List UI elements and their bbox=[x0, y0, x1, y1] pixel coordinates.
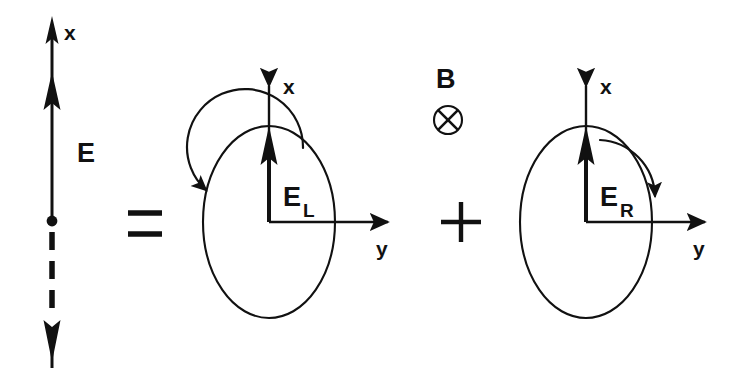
e-l-rotation-arc-ccw bbox=[187, 89, 303, 190]
magnetic-field-group: B bbox=[434, 64, 462, 134]
e-r-subscript: R bbox=[620, 200, 634, 221]
e-l-subscript: L bbox=[303, 200, 315, 221]
linear-polarization-group: x E bbox=[44, 16, 96, 368]
x-axis-label-right: x bbox=[600, 75, 612, 98]
diagram-canvas: x E = x y E L bbox=[0, 0, 752, 376]
x-axis-label-middle: x bbox=[283, 75, 295, 98]
right-circular-polarization-group: x y E R bbox=[520, 75, 705, 318]
e-l-label: E bbox=[283, 182, 301, 212]
e-r-label: E bbox=[600, 182, 618, 212]
polarization-decomposition-figure: x E = x y E L bbox=[0, 0, 752, 376]
equals-operator: = bbox=[128, 213, 162, 275]
left-circular-polarization-group: x y E L bbox=[187, 75, 388, 318]
origin-dot bbox=[47, 216, 58, 227]
y-axis-label-right: y bbox=[693, 237, 705, 260]
y-axis-label-middle: y bbox=[376, 237, 388, 260]
x-axis-label-left: x bbox=[64, 21, 76, 44]
b-field-label: B bbox=[436, 64, 456, 94]
plus-operator: + bbox=[441, 202, 481, 270]
e-field-label: E bbox=[77, 138, 95, 168]
